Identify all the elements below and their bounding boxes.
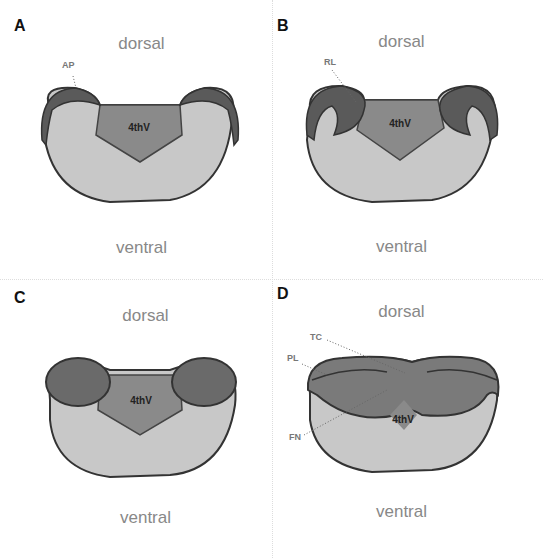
ventricle-label: 4thV — [130, 395, 152, 406]
ventricle-label: 4thV — [392, 414, 414, 425]
ventricle-label: 4thV — [128, 122, 150, 133]
panel-c: C dorsal 4thV ventral — [0, 280, 271, 558]
ventral-label: ventral — [266, 502, 537, 522]
ventral-label: ventral — [10, 508, 281, 528]
panel-d: D dorsal TC PL FN 4thV ventral — [272, 280, 543, 558]
panel-a: A dorsal AP 4thV ventral — [0, 0, 271, 279]
panel-b: B dorsal RL 4thV ventral — [272, 0, 543, 279]
ventricle-label: 4thV — [389, 118, 411, 129]
ventral-label: ventral — [266, 237, 537, 257]
ventral-label: ventral — [6, 238, 277, 258]
